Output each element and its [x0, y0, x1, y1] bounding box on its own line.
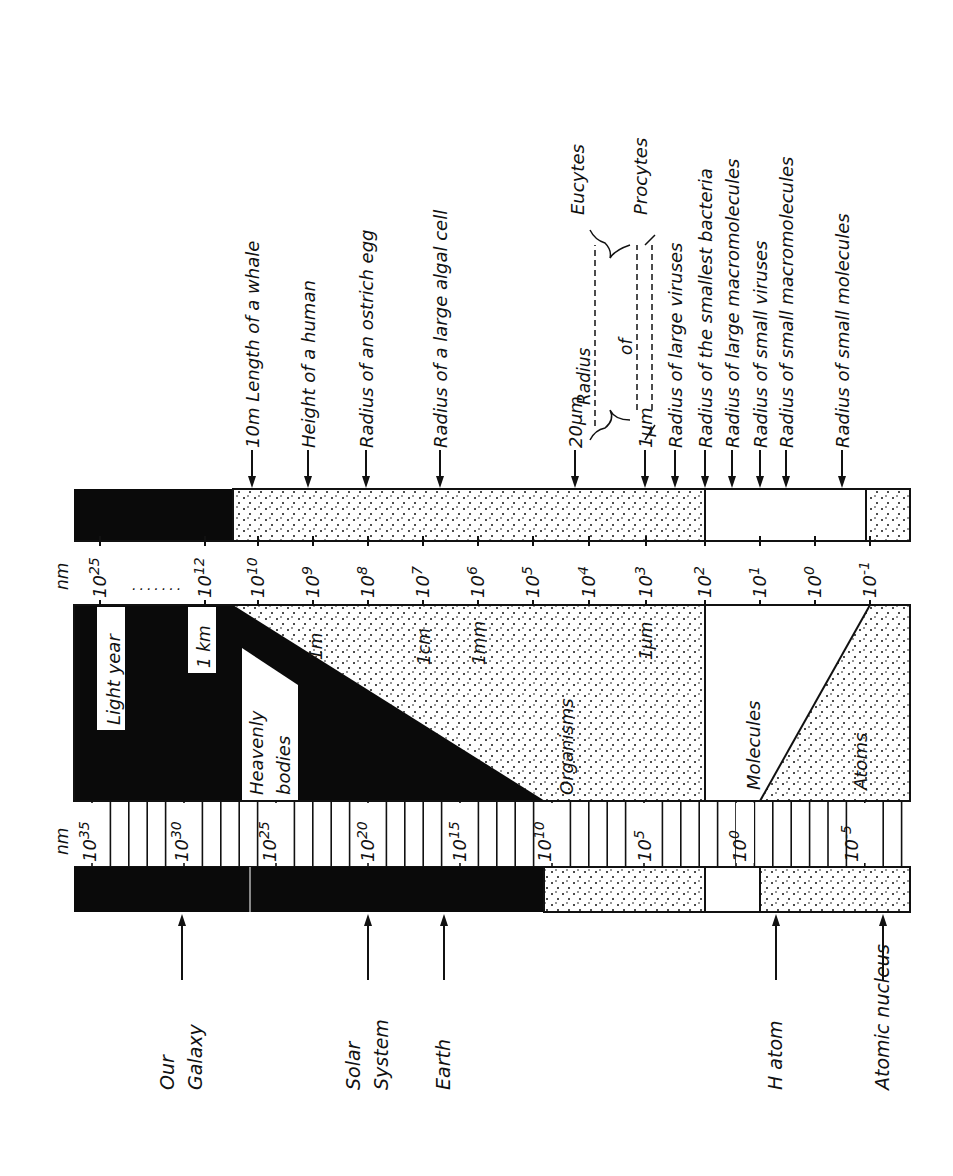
bottom-bar — [74, 867, 910, 912]
upper-tick-label: 107 — [409, 566, 433, 598]
upper-axis: 1025101210101091081071061051041031021011… — [74, 536, 910, 610]
bottom-label: System — [370, 1019, 392, 1090]
upper-tick-label: 1010 — [244, 557, 268, 598]
label-light-year: Light year — [103, 633, 124, 725]
upper-tick-label: 1025 — [86, 557, 110, 598]
top-arrows — [248, 450, 846, 488]
bottom-label: Atomic nucleus — [871, 944, 893, 1092]
top-label: Radius of the smallest bacteria — [695, 168, 716, 448]
bracket-eucytes: Eucytes — [567, 144, 588, 215]
upper-tick-label: 109 — [299, 566, 323, 598]
upper-tick-label: 1012 — [191, 557, 215, 598]
top-label: Radius of an ostrich egg — [356, 229, 377, 448]
label-organisms: Organisms — [556, 698, 577, 795]
upper-tick-label: 103 — [632, 566, 656, 598]
top-label: Radius of small molecules — [832, 213, 853, 448]
label-heavenly: Heavenly — [246, 710, 267, 795]
scale-of-sizes-diagram: nm nm 10m Length of a whaleHeight of a h… — [0, 0, 953, 1176]
dotted-gap: ....... — [132, 577, 184, 593]
top-labels: 10m Length of a whaleHeight of a humanRa… — [242, 157, 853, 448]
upper-tick-label: 101 — [746, 566, 770, 598]
bracket-radius: Radius — [574, 347, 594, 405]
label-atoms: Atoms — [850, 733, 871, 791]
bracket-procytes: Procytes — [630, 138, 651, 215]
top-label: Height of a human — [298, 280, 319, 448]
upper-tick-label: 100 — [801, 566, 825, 598]
label-1um: 1μm — [636, 622, 656, 660]
upper-tick-label: 105 — [519, 566, 543, 598]
label-1mm: 1mm — [469, 621, 489, 665]
label-1m: 1m — [306, 633, 326, 660]
top-bar — [74, 489, 910, 541]
unit-label-lower: nm — [52, 828, 72, 855]
lower-axis: 10351030102510201015101010510010-5 — [74, 801, 910, 867]
top-label: Radius of a large algal cell — [430, 210, 451, 448]
top-label: Radius of large macromolecules — [722, 159, 743, 448]
label-molecules: Molecules — [743, 701, 764, 790]
bottom-label: H atom — [764, 1020, 786, 1090]
upper-tick-label: 104 — [575, 566, 599, 598]
bracket-of: of — [616, 336, 636, 355]
bottom-label: Solar — [342, 1040, 364, 1090]
unit-label-upper: nm — [52, 563, 72, 590]
bottom-label: Earth — [432, 1039, 454, 1090]
bottom-labels: OurGalaxySolarSystemEarthH atomAtomic nu… — [156, 914, 893, 1092]
top-label: Radius of large viruses — [665, 243, 686, 449]
upper-tick-label: 102 — [691, 566, 715, 598]
label-1km: 1 km — [194, 625, 214, 668]
upper-tick-label: 10-1 — [856, 561, 880, 598]
bottom-label: Our — [156, 1054, 178, 1090]
bottom-label: Galaxy — [184, 1023, 206, 1090]
top-label: Radius of small macromolecules — [776, 157, 797, 448]
upper-tick-label: 108 — [354, 566, 378, 598]
top-label: 10m Length of a whale — [242, 241, 263, 448]
upper-tick-label: 106 — [464, 566, 488, 598]
label-1cm: 1cm — [414, 628, 434, 665]
label-bodies: bodies — [273, 736, 294, 795]
top-label: Radius of small viruses — [750, 240, 771, 448]
